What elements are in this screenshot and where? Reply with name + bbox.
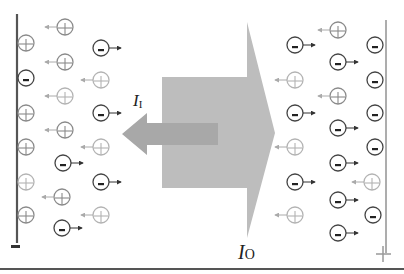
cation-icon — [318, 88, 346, 104]
anion-icon — [367, 37, 383, 53]
anion-icon — [330, 225, 358, 241]
cation-icon — [18, 207, 34, 223]
cation-icon — [18, 35, 34, 51]
cation-icon — [45, 54, 73, 70]
cation-icon — [45, 88, 73, 104]
anion-icon — [93, 174, 121, 190]
cation-icon — [318, 22, 346, 38]
anion-icon — [287, 174, 315, 190]
cation-icon — [275, 72, 303, 88]
anion-icon — [367, 72, 383, 88]
diagram-canvas: II IO — [0, 0, 404, 274]
anion-icon — [367, 105, 383, 121]
cation-icon — [275, 139, 303, 155]
anion-icon — [365, 207, 381, 223]
cation-icon — [18, 174, 34, 190]
svg-text:IO: IO — [237, 241, 255, 263]
cation-icon — [81, 139, 109, 155]
svg-text:II: II — [132, 91, 143, 110]
cation-icon — [81, 72, 109, 88]
inner-current-label: II — [132, 91, 143, 110]
anion-icon — [93, 105, 121, 121]
cation-icon — [275, 207, 303, 223]
anion-icon — [54, 220, 82, 236]
anion-icon — [287, 37, 315, 53]
anion-icon — [330, 155, 358, 171]
ion-current-diagram: II IO — [0, 0, 404, 274]
anion-icon — [287, 105, 315, 121]
cation-icon — [81, 207, 109, 223]
cation-icon — [352, 174, 380, 190]
anion-icon — [18, 70, 34, 86]
plus-sign-icon — [376, 246, 391, 262]
anion-icon — [330, 192, 358, 208]
cation-icon — [18, 139, 34, 155]
anion-icon — [330, 54, 358, 70]
cation-icon — [45, 122, 73, 138]
outer-current-label: IO — [237, 241, 255, 263]
anion-icon — [367, 139, 383, 155]
cation-icon — [45, 19, 73, 35]
cation-icon — [18, 105, 34, 121]
anion-icon — [330, 120, 358, 136]
minus-sign-icon — [11, 245, 20, 248]
anion-icon — [55, 155, 83, 171]
anion-icon — [93, 40, 121, 56]
cation-icon — [42, 189, 70, 205]
